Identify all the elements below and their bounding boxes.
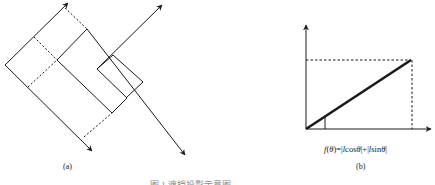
rect-edge-2 [57, 60, 112, 113]
formula-mid: |+| [361, 144, 369, 154]
axis-up-right-arrow [97, 5, 162, 69]
formula-eq: )=| [333, 144, 342, 154]
formula-sin: sin [371, 144, 381, 154]
axis-down-right-arrow [87, 29, 185, 155]
square-edge-2 [97, 69, 127, 98]
axis-up-arrow-a [5, 3, 68, 65]
axis-down-arrow-a [5, 65, 92, 151]
dashed-projection-left-upper [34, 37, 57, 60]
formula-cos: cos [345, 144, 356, 154]
rect-edge-3 [112, 98, 127, 113]
rect-edge-1 [57, 29, 87, 60]
vector-line [306, 60, 411, 129]
dashed-projection-top [65, 8, 87, 29]
dashed-projection-bottom [84, 113, 112, 137]
panel-a-diagram [5, 3, 185, 155]
panel-b-formula: f(θ)=|lcosθ|+|lsinθ| [324, 144, 387, 154]
formula-end: | [385, 144, 387, 154]
figure-caption: 图 1 遮挡投影示意图 [150, 178, 231, 185]
dashed-projection-left-lower [28, 60, 57, 87]
panel-b-label: (b) [356, 162, 365, 171]
panel-a-label: (a) [63, 162, 72, 171]
panel-b-diagram [306, 25, 431, 129]
figure-canvas [0, 0, 435, 185]
